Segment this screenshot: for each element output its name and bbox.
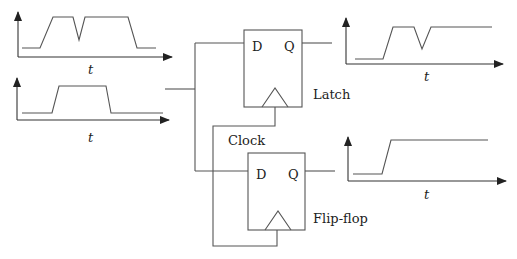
input-wiring (165, 43, 248, 171)
latch-label: Latch (313, 87, 351, 102)
signal-waveform (355, 27, 492, 59)
input-signal-clean-plot: t (17, 78, 169, 145)
flipflop-output-signal-plot: t (348, 137, 506, 202)
latch-clock-triangle-icon (262, 88, 288, 107)
latch-d-label: D (252, 39, 262, 54)
flipflop-clock-triangle-icon (265, 211, 291, 230)
signal-waveform (22, 17, 156, 48)
input-signal-glitchy-plot: t (18, 12, 172, 77)
latch-output-signal-plot: t (346, 18, 503, 84)
diagram-svg: tttt D Q Latch D Q Flip-flop (0, 0, 517, 259)
latch-q-label: Q (284, 39, 295, 54)
time-axis-label: t (424, 69, 430, 84)
time-axis-label: t (88, 62, 94, 77)
clock-label: Clock (228, 133, 265, 148)
flipflop-box (248, 153, 305, 230)
signal-waveform (353, 140, 488, 174)
time-axis-label: t (424, 187, 430, 202)
time-axis-label: t (88, 130, 94, 145)
clock-wiring: Clock (213, 107, 277, 246)
flipflop-d-label: D (256, 167, 266, 182)
flipflop-label: Flip-flop (313, 211, 368, 226)
signal-waveform (22, 86, 163, 113)
latch-vs-flipflop-diagram: tttt D Q Latch D Q Flip-flop (0, 0, 517, 259)
flipflop-block: D Q Flip-flop (248, 153, 368, 230)
clock-wire (213, 107, 277, 246)
flipflop-q-label: Q (288, 167, 299, 182)
latch-block: D Q Latch (244, 30, 351, 107)
